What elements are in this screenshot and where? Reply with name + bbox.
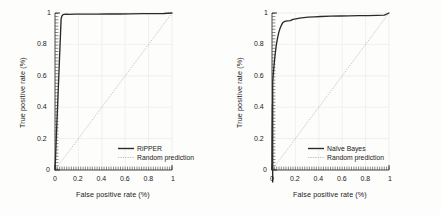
x-tick-06-left: 0.6 xyxy=(120,175,130,182)
x-tick-0-right: 0 xyxy=(270,175,274,182)
x-tick-02-left: 0.2 xyxy=(73,175,83,182)
x-tick-1-left: 1 xyxy=(171,175,175,182)
y-tick-08-right: 0.8 xyxy=(254,40,264,47)
y-tick-08-left: 0.8 xyxy=(37,40,47,47)
y-tick-1-right: 1 xyxy=(264,9,268,16)
x-tick-08-right: 0.8 xyxy=(361,175,371,182)
y-tick-0-left: 0 xyxy=(46,166,50,173)
legend-label-random-right: Random prediction xyxy=(327,154,384,161)
x-tick-04-left: 0.4 xyxy=(97,175,107,182)
legend-label-model-left: RiPPER xyxy=(137,145,162,152)
x-tick-02-right: 0.2 xyxy=(290,175,300,182)
y-tick-02-left: 0.2 xyxy=(37,135,47,142)
x-axis-title-right: False positive rate (%) xyxy=(293,190,367,199)
x-tick-06-right: 0.6 xyxy=(337,175,347,182)
y-tick-02-right: 0.2 xyxy=(254,135,264,142)
x-axis-title-left: False positive rate (%) xyxy=(76,190,150,199)
roc-panel-right: True positive rate (%) False positive ra… xyxy=(220,0,441,215)
y-tick-04-left: 0.4 xyxy=(37,103,47,110)
y-tick-1-left: 1 xyxy=(47,9,51,16)
x-tick-04-right: 0.4 xyxy=(314,175,324,182)
legend-label-random-left: Random prediction xyxy=(137,154,194,161)
roc-panel-left: True positive rate (%) False positive ra… xyxy=(0,0,220,215)
roc-figure: True positive rate (%) False positive ra… xyxy=(0,0,441,215)
plot-background-left xyxy=(0,0,220,215)
x-tick-1-right: 1 xyxy=(388,175,392,182)
y-tick-06-left: 0.6 xyxy=(37,72,47,79)
x-tick-0-left: 0 xyxy=(53,175,57,182)
x-tick-08-left: 0.8 xyxy=(144,175,154,182)
y-tick-04-right: 0.4 xyxy=(254,103,264,110)
y-axis-title-left: True positive rate (%) xyxy=(18,57,27,128)
y-tick-0-right: 0 xyxy=(263,166,267,173)
roc-plot-left xyxy=(0,0,220,215)
legend-label-model-right: Naïve Bayes xyxy=(327,145,366,152)
y-axis-title-right: True positive rate (%) xyxy=(235,57,244,128)
y-tick-06-right: 0.6 xyxy=(254,72,264,79)
